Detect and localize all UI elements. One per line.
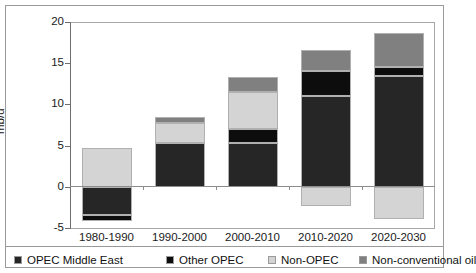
plot-right-border: [434, 22, 435, 229]
y-tick-label: 5: [34, 140, 64, 151]
y-tick-mark: [65, 63, 70, 64]
bar-segment[interactable]: [374, 33, 424, 68]
legend-swatch-icon: [14, 256, 22, 264]
legend-swatch-icon: [166, 256, 174, 264]
bar-segment[interactable]: [155, 143, 205, 187]
y-tick-mark: [65, 146, 70, 147]
bar-segment[interactable]: [301, 71, 351, 97]
bar-segment[interactable]: [155, 117, 205, 124]
bar-segment[interactable]: [228, 77, 278, 92]
bar-segment[interactable]: [82, 187, 132, 215]
y-tick-label: 15: [34, 57, 64, 68]
x-tick-mark: [216, 186, 217, 190]
bar-segment[interactable]: [374, 67, 424, 76]
legend-label: OPEC Middle East: [27, 254, 123, 266]
x-tick-mark: [143, 186, 144, 190]
x-tick-label: 2010-2020: [289, 231, 362, 244]
bar-segment[interactable]: [301, 50, 351, 71]
bar-segment[interactable]: [228, 129, 278, 143]
bar-stack[interactable]: [301, 22, 351, 228]
x-tick-mark: [289, 186, 290, 190]
x-tick-mark: [362, 186, 363, 190]
y-tick-mark: [65, 22, 70, 23]
bar-segment[interactable]: [301, 187, 351, 206]
legend-label: Non-conventional oil: [372, 254, 476, 266]
y-tick-mark: [65, 187, 70, 188]
legend-label: Other OPEC: [179, 254, 244, 266]
bar-segment[interactable]: [301, 96, 351, 187]
bar-segment[interactable]: [155, 123, 205, 143]
legend-item[interactable]: OPEC Middle East: [14, 254, 123, 266]
x-tick-label: 2000-2010: [216, 231, 289, 244]
y-tick-label: -5: [34, 222, 64, 233]
legend-item[interactable]: Non-conventional oil: [359, 254, 476, 266]
bar-segment[interactable]: [228, 143, 278, 187]
zero-baseline: [70, 186, 435, 187]
legend-item[interactable]: Non-OPEC: [268, 254, 339, 266]
y-axis-line: [70, 22, 71, 229]
legend-separator: [6, 246, 443, 247]
x-tick-label: 1980-1990: [70, 231, 143, 244]
legend-item[interactable]: Other OPEC: [166, 254, 244, 266]
bar-stack[interactable]: [82, 22, 132, 228]
y-axis-tick-labels: 20151050-5: [28, 0, 64, 273]
bar-stack[interactable]: [228, 22, 278, 228]
bar-segment[interactable]: [228, 92, 278, 129]
bar-segment[interactable]: [374, 76, 424, 186]
y-tick-label: 0: [34, 181, 64, 192]
legend-swatch-icon: [268, 256, 276, 264]
legend-swatch-icon: [359, 256, 367, 264]
y-tick-label: 20: [34, 16, 64, 27]
bar-segment[interactable]: [82, 148, 132, 187]
bar-segment[interactable]: [374, 187, 424, 219]
y-tick-mark: [65, 104, 70, 105]
plot-bottom-border: [70, 228, 435, 229]
chart-legend: OPEC Middle EastOther OPECNon-OPECNon-co…: [14, 252, 435, 267]
y-tick-mark: [65, 228, 70, 229]
bar-stack[interactable]: [374, 22, 424, 228]
bar-segment[interactable]: [82, 215, 132, 222]
x-tick-label: 2020-2030: [362, 231, 435, 244]
legend-label: Non-OPEC: [281, 254, 339, 266]
y-tick-label: 10: [34, 98, 64, 109]
x-tick-label: 1990-2000: [143, 231, 216, 244]
bar-stack[interactable]: [155, 22, 205, 228]
